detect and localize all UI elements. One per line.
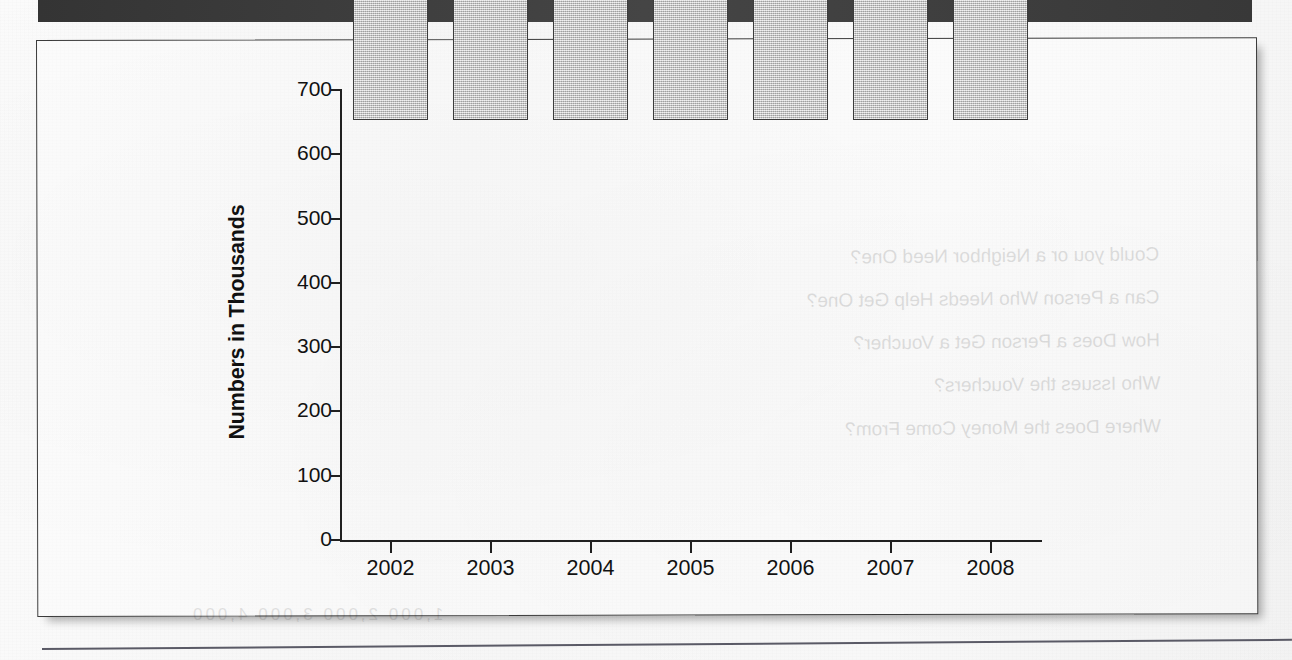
x-axis-category-label: 2005	[667, 556, 715, 581]
x-axis-category-label: 2008	[967, 556, 1015, 581]
header-black-band	[38, 0, 1252, 22]
x-axis-tick-mark	[590, 542, 592, 553]
bar[interactable]	[553, 0, 628, 120]
y-axis-tick-mark	[331, 410, 342, 412]
x-axis-category-label: 2007	[867, 556, 915, 581]
x-axis-tick-mark	[390, 542, 392, 553]
page-bottom-rule	[42, 639, 1292, 650]
bar[interactable]	[453, 0, 528, 120]
x-axis-category-label: 2002	[367, 556, 415, 581]
bar[interactable]	[853, 0, 928, 120]
scanned-page: Could you or a Neighbor Need One? Can a …	[0, 0, 1292, 660]
x-axis-tick-mark	[890, 542, 892, 553]
y-axis-title: Numbers in Thousands	[225, 205, 250, 440]
y-axis-tick-label: 100	[297, 463, 332, 487]
y-axis-tick-mark	[331, 218, 342, 220]
x-axis-tick-mark	[990, 542, 992, 553]
x-axis-tick-mark	[490, 542, 492, 553]
bar[interactable]	[953, 0, 1028, 120]
y-axis-tick-mark	[331, 282, 342, 284]
y-axis-tick-label: 500	[297, 206, 332, 230]
y-axis-tick-label: 700	[297, 77, 332, 101]
y-axis-tick-label: 600	[297, 141, 332, 165]
x-axis-tick-mark	[690, 542, 692, 553]
y-axis-tick-mark	[331, 539, 342, 541]
bar[interactable]	[353, 0, 428, 120]
bar[interactable]	[653, 0, 728, 120]
y-axis-tick-mark	[331, 475, 342, 477]
y-axis-tick-label: 200	[297, 398, 332, 422]
y-axis-tick-mark	[331, 89, 342, 91]
y-axis-tick-mark	[331, 346, 342, 348]
x-axis-category-label: 2003	[467, 556, 515, 581]
x-axis-category-label: 2004	[567, 556, 615, 581]
x-axis-tick-mark	[790, 542, 792, 553]
x-axis-category-label: 2006	[767, 556, 815, 581]
y-axis-tick-label: 300	[297, 334, 332, 358]
figure-frame-box	[36, 37, 1258, 617]
bar[interactable]	[753, 0, 828, 120]
y-axis-tick-label: 400	[297, 270, 332, 294]
y-axis-tick-mark	[331, 153, 342, 155]
